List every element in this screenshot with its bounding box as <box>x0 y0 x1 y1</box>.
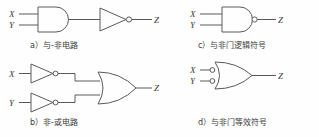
output-label-z: Z <box>278 15 284 25</box>
input-bubble-y-icon <box>210 79 215 84</box>
inverter-bottom-bubble-icon <box>53 100 58 105</box>
figure-canvas: X Y Z a）与-非电路 X Y Z <box>0 0 319 137</box>
input-bubble-x-icon <box>210 68 215 73</box>
inverter-gate-top <box>31 64 53 83</box>
panel-d-caption: d）与非门等效符号 <box>198 116 267 127</box>
and-gate <box>38 7 69 32</box>
input-label-x: X <box>8 69 15 79</box>
panel-d-circuit: X Y Z <box>160 58 319 113</box>
panel-b-caption: b）非-或电路 <box>30 116 78 127</box>
input-label-y: Y <box>9 20 15 30</box>
or-gate-with-inverted-inputs <box>215 62 252 89</box>
inverter-bubble-icon <box>126 17 131 22</box>
panel-a-caption: a）与-非电路 <box>30 39 78 50</box>
inverter-gate-bottom <box>31 93 53 112</box>
panel-b: X Y Z <box>0 58 160 113</box>
or-gate <box>98 72 136 104</box>
output-label-z: Z <box>278 71 284 81</box>
wire-bottom-inverter-to-or <box>58 95 100 103</box>
nand-gate <box>222 7 253 32</box>
inverter-top-bubble-icon <box>53 71 58 76</box>
panel-d: X Y Z <box>160 58 319 113</box>
nand-bubble-icon <box>252 17 257 22</box>
panel-a: X Y Z <box>0 0 160 55</box>
panel-b-circuit: X Y Z <box>0 58 160 113</box>
panel-c-caption: c）与非门逻辑符号 <box>198 39 266 50</box>
inverter-gate <box>100 8 126 31</box>
input-label-x: X <box>8 9 15 19</box>
input-label-y: Y <box>9 98 15 108</box>
wire-top-inverter-to-or <box>58 74 100 82</box>
input-label-y: Y <box>190 76 196 86</box>
input-label-x: X <box>189 9 196 19</box>
input-label-y: Y <box>190 20 196 30</box>
input-label-x: X <box>189 65 196 75</box>
panel-a-circuit: X Y Z <box>0 0 160 55</box>
